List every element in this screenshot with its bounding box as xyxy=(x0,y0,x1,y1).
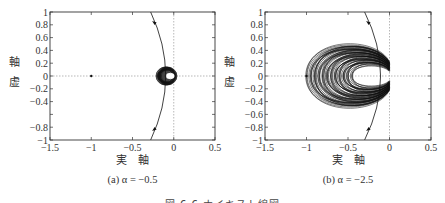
plot-panel-a: −1.5−1−0.500.510.80.60.40.20−0.2−0.4−0.8… xyxy=(9,7,222,187)
y-tick-label: 0.6 xyxy=(36,32,49,43)
y-tick-label: 1 xyxy=(43,7,48,18)
y-tick-label: −0.4 xyxy=(245,96,263,107)
x-tick-label: −1 xyxy=(301,142,312,153)
y-tick-label: −1 xyxy=(37,135,48,146)
x-tick-label: 0.5 xyxy=(425,142,438,153)
panel-subtitle: (b) α = −2.5 xyxy=(323,174,374,186)
panel-subtitle: (a) α = −0.5 xyxy=(108,174,158,186)
y-tick-label: 1 xyxy=(258,7,263,18)
x-tick-label: 0.5 xyxy=(209,142,222,153)
unit-circle-arc xyxy=(365,12,381,140)
y-tick-label: −0.2 xyxy=(245,83,263,94)
plot-panel-b: −1.5−1−0.500.510.80.60.40.20−0.2−0.4−0.6… xyxy=(224,7,438,187)
x-tick-label: −0.5 xyxy=(123,142,141,153)
y-tick-label: 0.2 xyxy=(36,58,49,69)
y-axis-label-bottom: 虚 xyxy=(224,76,235,89)
y-tick-label: 0.8 xyxy=(36,19,49,30)
figure-caption: 図 6.6 ナイキスト線図 xyxy=(0,196,445,203)
x-tick-label: −0.5 xyxy=(339,142,357,153)
y-axis-label-bottom: 虚 xyxy=(9,76,20,89)
y-tick-label: −0.6 xyxy=(245,109,263,120)
y-tick-label: 0.2 xyxy=(251,58,264,69)
critical-point-marker xyxy=(305,75,307,77)
y-tick-label: −0.2 xyxy=(30,83,48,94)
x-axis-label: 実 軸 xyxy=(116,153,149,167)
x-axis-label: 実 軸 xyxy=(332,153,365,167)
y-tick-label: −0.8 xyxy=(30,122,48,133)
y-tick-label: −1 xyxy=(252,135,263,146)
y-tick-label: 0.8 xyxy=(251,19,264,30)
y-tick-label: 0 xyxy=(258,71,263,82)
y-tick-label: 0.6 xyxy=(251,32,264,43)
y-tick-label: −0.4 xyxy=(30,96,48,107)
x-tick-label: 0 xyxy=(387,142,392,153)
y-tick-label: −0.8 xyxy=(245,122,263,133)
y-axis-label-top: 軸 xyxy=(9,55,20,69)
x-tick-label: −1 xyxy=(86,142,97,153)
y-tick-label: 0.4 xyxy=(36,45,49,56)
x-tick-label: 0 xyxy=(171,142,176,153)
y-tick-label: 0 xyxy=(43,71,48,82)
y-axis-label-top: 軸 xyxy=(224,55,235,69)
critical-point-marker xyxy=(90,75,92,77)
nyquist-locus xyxy=(156,67,177,85)
nyquist-figure: −1.5−1−0.500.510.80.60.40.20−0.2−0.4−0.8… xyxy=(0,0,445,203)
y-tick-label: 0.4 xyxy=(251,45,264,56)
